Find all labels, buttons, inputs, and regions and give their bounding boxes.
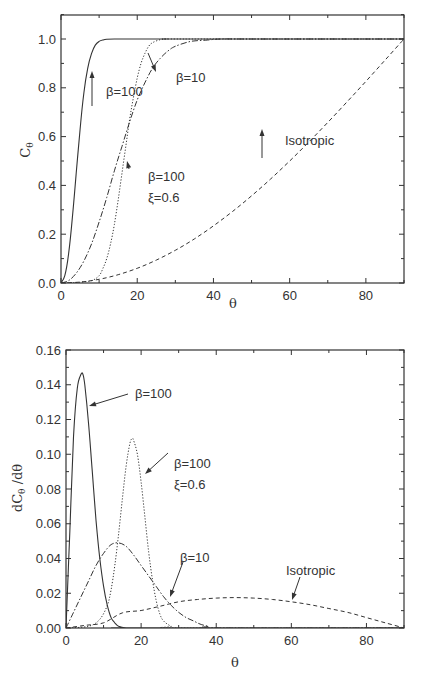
y-tick-label: 0.2 <box>38 227 56 242</box>
chart-derivative: 0204060800.000.020.040.060.080.100.120.1… <box>10 343 404 671</box>
chart-cumulative: 0204060800.00.20.40.60.81.0 β=100β=10β=1… <box>18 15 404 311</box>
y-tick-label: 0.08 <box>36 482 61 497</box>
plot-frame <box>61 15 404 283</box>
svg-text:β=10: β=10 <box>180 550 210 565</box>
series--100-0-6 <box>66 438 404 628</box>
annotations: β=100β=10β=100ξ=0.6Isotropic <box>90 53 335 205</box>
y-tick-label: 0.10 <box>36 447 61 462</box>
svg-text:β=100: β=100 <box>135 386 172 401</box>
plot-frame <box>66 350 404 628</box>
series--10 <box>61 39 404 283</box>
annotation--100-0-6: β=100ξ=0.6 <box>145 453 211 492</box>
annotations: β=100β=100ξ=0.6β=10Isotropic <box>89 386 336 600</box>
x-tick-label: 0 <box>62 633 69 648</box>
x-tick-label: 20 <box>130 288 144 303</box>
y-tick-label: 0.06 <box>36 516 61 531</box>
series-isotropic <box>61 39 404 283</box>
y-axis-label: Cθ <box>18 142 35 157</box>
x-tick-label: 20 <box>134 633 148 648</box>
axis-ticks: 0204060800.00.20.40.60.81.0 <box>38 15 404 303</box>
axis-ticks: 0204060800.000.020.040.060.080.100.120.1… <box>36 343 404 649</box>
svg-text:Isotropic: Isotropic <box>286 563 336 578</box>
series--100-0-6 <box>61 39 404 283</box>
y-tick-label: 0.0 <box>38 276 56 291</box>
x-tick-label: 0 <box>57 288 64 303</box>
svg-text:β=100: β=100 <box>106 84 143 99</box>
y-tick-label: 0.6 <box>38 129 56 144</box>
series-isotropic <box>66 598 404 628</box>
svg-text:ξ=0.6: ξ=0.6 <box>174 477 205 492</box>
y-axis-label: dCθ /dθ <box>10 464 27 513</box>
figure: 0204060800.00.20.40.60.81.0 β=100β=10β=1… <box>0 0 421 680</box>
svg-text:Isotropic: Isotropic <box>285 133 335 148</box>
series--100 <box>66 373 404 628</box>
x-tick-label: 80 <box>359 633 373 648</box>
x-tick-label: 60 <box>282 288 296 303</box>
svg-text:β=100: β=100 <box>174 456 211 471</box>
annotation--10: β=10 <box>170 550 210 597</box>
y-tick-label: 0.8 <box>38 80 56 95</box>
x-tick-label: 60 <box>284 633 298 648</box>
svg-text:β=10: β=10 <box>176 70 206 85</box>
series--100 <box>61 39 404 283</box>
svg-text:β=100: β=100 <box>148 169 185 184</box>
series--10 <box>66 543 404 628</box>
y-tick-label: 0.12 <box>36 412 61 427</box>
annotation--100-0-6: β=100ξ=0.6 <box>126 161 184 205</box>
x-tick-label: 40 <box>209 633 223 648</box>
svg-text:ξ=0.6: ξ=0.6 <box>148 190 179 205</box>
y-tick-label: 0.16 <box>36 343 61 358</box>
annotation--100: β=100 <box>90 71 143 106</box>
annotation--10: β=10 <box>148 53 206 85</box>
series-layer <box>66 373 404 628</box>
x-tick-label: 80 <box>359 288 373 303</box>
series-layer <box>61 39 404 283</box>
y-tick-label: 0.4 <box>38 178 56 193</box>
annotation--100: β=100 <box>89 386 172 406</box>
x-tick-label: 40 <box>206 288 220 303</box>
y-tick-label: 0.04 <box>36 551 61 566</box>
y-tick-label: 0.14 <box>36 377 61 392</box>
x-axis-label: θ <box>229 296 237 311</box>
y-tick-label: 0.02 <box>36 586 61 601</box>
annotation-isotropic: Isotropic <box>286 563 336 600</box>
y-tick-label: 0.00 <box>36 621 61 636</box>
x-axis-label: θ <box>231 655 239 670</box>
y-tick-label: 1.0 <box>38 32 56 47</box>
